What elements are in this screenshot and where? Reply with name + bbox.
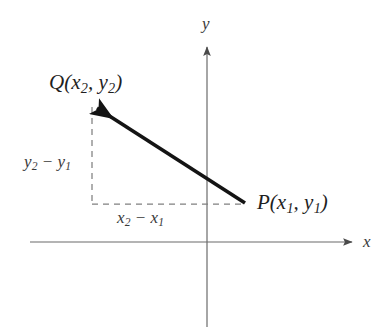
- vertical-leg-sub2: 1: [65, 160, 71, 173]
- point-p-mid: , y: [294, 190, 314, 214]
- point-label-p: P(x1, y1): [257, 192, 328, 215]
- vector-p-to-q-line: [97, 108, 245, 203]
- point-p-sub2: 1: [313, 200, 320, 216]
- x-axis-label: x: [363, 233, 371, 250]
- horizontal-leg-label: x2 − x1: [117, 209, 164, 229]
- point-q-text: Q(x: [49, 70, 80, 94]
- point-q-close: ): [115, 70, 122, 94]
- vertical-leg-minus: − y: [38, 152, 66, 171]
- point-q-mid: , y: [88, 70, 108, 94]
- point-p-text: P(x: [257, 190, 286, 214]
- point-p-close: ): [321, 190, 328, 214]
- vertical-leg-text: y: [24, 152, 32, 171]
- horizontal-leg-sub2: 1: [158, 216, 164, 229]
- y-axis-label: y: [202, 15, 210, 32]
- vertical-leg-label: y2 − y1: [24, 153, 71, 173]
- figure-canvas: Q(x2, y2) P(x1, y1) y2 − y1 x2 − x1 y x: [0, 0, 390, 332]
- horizontal-leg-text: x: [117, 208, 125, 227]
- point-q-sub1: 2: [80, 80, 87, 96]
- horizontal-leg-minus: − x: [131, 208, 159, 227]
- point-label-q: Q(x2, y2): [49, 72, 122, 95]
- point-p-sub1: 1: [286, 200, 293, 216]
